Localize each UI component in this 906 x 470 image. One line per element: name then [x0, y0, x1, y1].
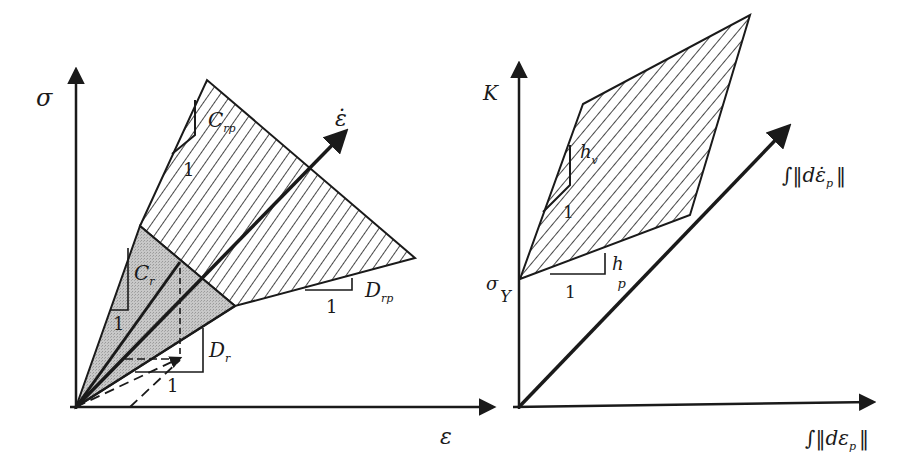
label-d-rp: Drp: [364, 278, 393, 305]
label-h-p: hp: [612, 253, 627, 291]
left-panel: σ ε ε̇ Crp 1 Cr 1 Dr 1 Drp 1: [36, 70, 493, 449]
unit-label: 1: [326, 296, 337, 317]
unit-label: 1: [565, 282, 576, 302]
unit-label: 1: [167, 375, 178, 396]
strain-rate-axis-label: ε̇: [335, 106, 347, 131]
right-panel: K σY hv 1 hp 1 ∫‖dε̇p‖ ∫‖dεp‖: [482, 15, 873, 453]
plastic-strain-axis-label: ∫‖dεp‖: [805, 426, 869, 453]
k-axis-label: K: [482, 81, 499, 105]
epsilon-axis-label: ε: [440, 424, 452, 449]
unit-label: 1: [183, 159, 194, 180]
sigma-axis-label: σ: [36, 84, 53, 112]
figure-canvas: σ ε ε̇ Crp 1 Cr 1 Dr 1 Drp 1 K: [0, 0, 906, 470]
unit-label: 1: [563, 202, 574, 222]
plastic-strain-rate-axis-label: ∫‖dε̇p‖: [782, 163, 846, 190]
unit-label: 1: [113, 313, 124, 334]
hatched-region: [520, 15, 750, 279]
label-d-r: Dr: [208, 338, 231, 365]
sigma-y-label: σY: [486, 273, 512, 306]
plastic-strain-axis: [513, 402, 873, 407]
